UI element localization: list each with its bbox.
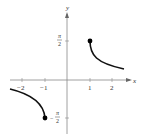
y-axis-label: y <box>65 4 70 12</box>
closed-point-neg1-neg-pi-over-2 <box>43 116 48 121</box>
x-axis-label: x <box>132 77 137 85</box>
x-tick-label: 1 <box>88 84 92 92</box>
x-tick-label: −1 <box>40 84 48 92</box>
graph: x y −2 −1 1 2 π 2 − π 2 <box>0 0 141 140</box>
x-axis-arrow-icon <box>126 78 132 82</box>
curve-right-branch <box>90 41 124 69</box>
closed-point-1-pi-over-2 <box>88 39 93 44</box>
y-tick-label-neg-pi-over-2-numerator: π <box>56 110 60 116</box>
curve-left-branch <box>10 89 45 118</box>
y-tick-label-pi-over-2-numerator: π <box>58 33 62 39</box>
y-axis-arrow-icon <box>65 12 69 18</box>
y-tick-label-neg-sign: − <box>50 115 54 121</box>
x-tick-label: 2 <box>110 84 114 92</box>
y-tick-label-neg-pi-over-2-denominator: 2 <box>56 118 59 124</box>
y-tick-label-pi-over-2-denominator: 2 <box>58 41 61 47</box>
